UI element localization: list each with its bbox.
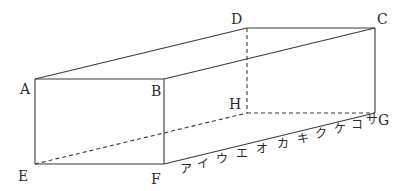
kana-label: イ (197, 157, 209, 171)
edge-FG (164, 113, 375, 164)
vertex-label-F: F (151, 171, 161, 187)
kana-label: コ (351, 118, 363, 132)
vertex-label-C: C (377, 11, 388, 27)
kana-label: ウ (216, 152, 228, 166)
kana-label: エ (236, 147, 248, 161)
kana-label: ケ (334, 122, 346, 136)
prism-diagram: A B D C H G E F ア イ ウ エ オ カ キ ク ケ コ サ (0, 0, 407, 191)
kana-label: ア (180, 162, 192, 176)
vertex-label-B: B (151, 83, 161, 99)
edge-BC (164, 28, 375, 79)
vertex-label-H: H (229, 96, 241, 112)
vertex-label-E: E (18, 168, 28, 184)
vertex-label-A: A (19, 81, 31, 97)
kana-label: ク (315, 127, 327, 141)
kana-label: キ (297, 132, 309, 146)
kana-label: サ (366, 113, 378, 127)
diagram-canvas: A B D C H G E F ア イ ウ エ オ カ キ ク ケ コ サ (0, 0, 407, 191)
kana-label: オ (256, 142, 268, 156)
fg-division-labels: ア イ ウ エ オ カ キ ク ケ コ サ (180, 113, 378, 176)
edge-AD (35, 28, 247, 79)
vertex-label-D: D (231, 11, 242, 27)
vertex-label-G: G (378, 112, 389, 128)
kana-label: カ (277, 137, 289, 151)
